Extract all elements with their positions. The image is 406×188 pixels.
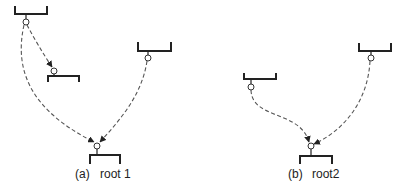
bracket-icon [15, 6, 47, 14]
diagram-canvas: (a) root 1 (b) root2 [0, 0, 406, 188]
bracket-icon [300, 156, 332, 164]
bracket-icon [90, 155, 120, 164]
node-a-right [138, 42, 171, 61]
panel-caption-a: (a) [75, 167, 90, 181]
bracket-icon [138, 42, 171, 51]
node-a-top [15, 6, 47, 25]
node-circle [145, 55, 151, 61]
panel-a: (a) root 1 [15, 6, 171, 181]
node-b-right [359, 43, 391, 61]
node-a-root [90, 143, 120, 164]
edge-a-top-to-root [21, 25, 94, 142]
panel-b: (b) root2 [244, 43, 391, 181]
root-label-b: root2 [312, 167, 340, 181]
node-circle [248, 84, 254, 90]
bracket-icon [48, 76, 79, 82]
panel-caption-b: (b) [288, 167, 303, 181]
node-circle [23, 19, 29, 25]
edge-a-top-to-mid [27, 25, 52, 67]
node-circle [368, 55, 374, 61]
edge-b-right-to-root [314, 61, 370, 144]
node-circle [51, 68, 57, 74]
root-label-a: root 1 [100, 167, 131, 181]
node-b-root [300, 143, 332, 164]
node-b-left [244, 73, 276, 90]
edge-b-left-to-root [251, 90, 309, 142]
node-a-mid [48, 68, 79, 82]
node-circle [308, 143, 314, 149]
edge-a-right-to-root [100, 61, 147, 142]
bracket-icon [244, 73, 276, 79]
bracket-icon [359, 43, 391, 51]
node-circle [94, 143, 100, 149]
